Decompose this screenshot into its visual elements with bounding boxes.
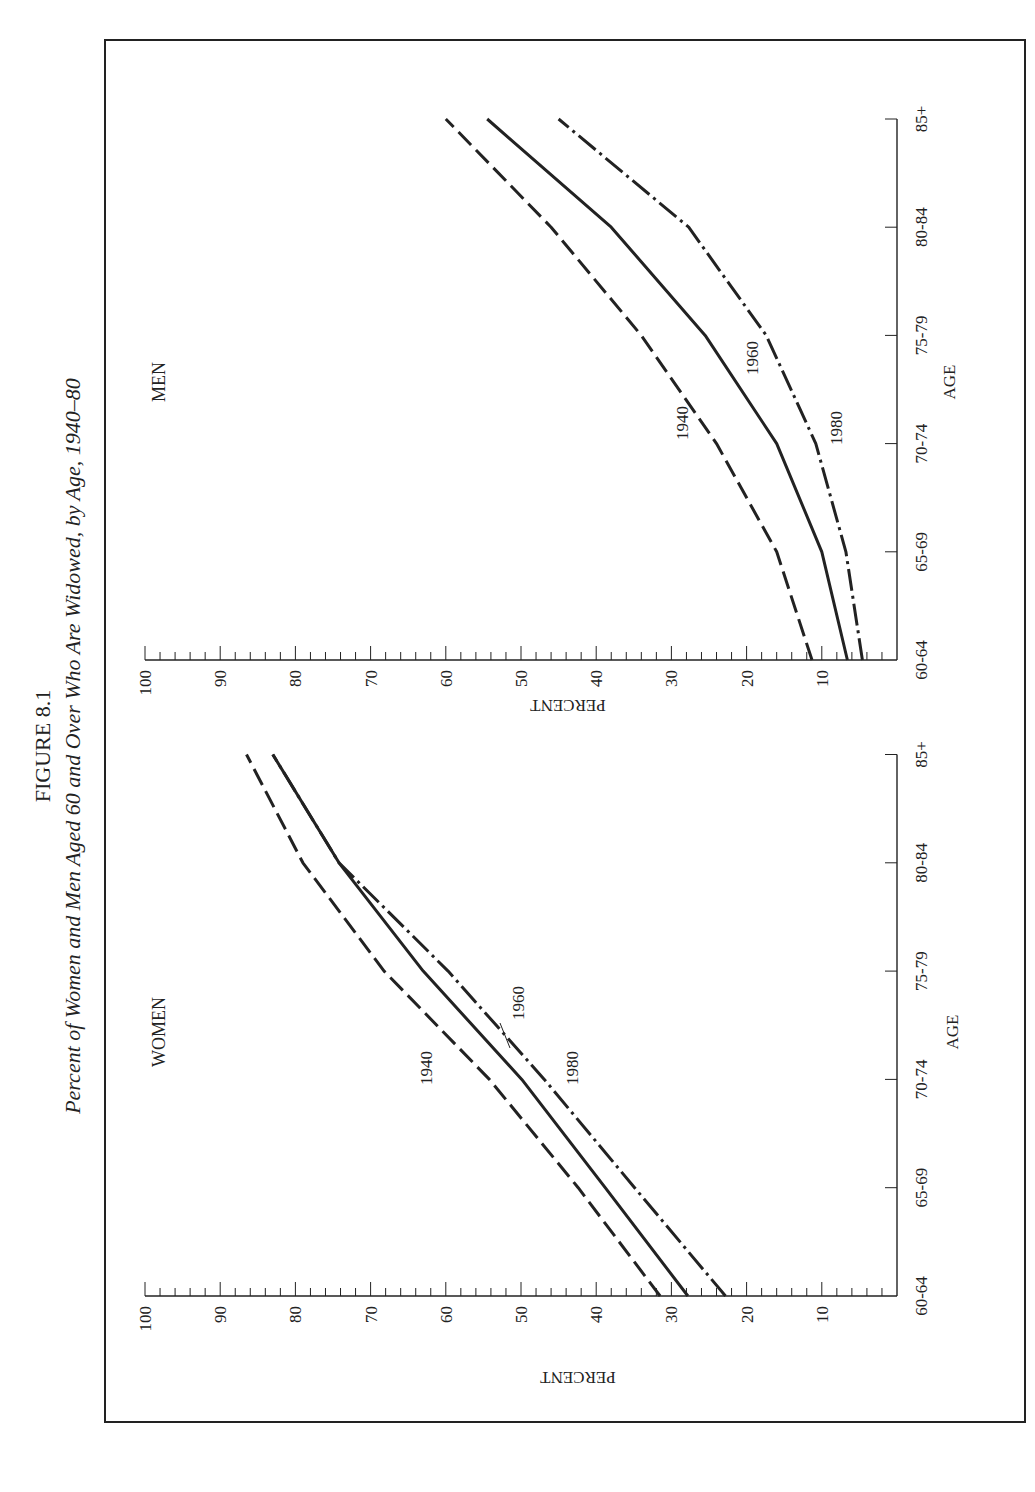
figure-title: Percent of Women and Men Aged 60 and Ove…: [60, 378, 85, 1115]
women-xlabel: AGE: [943, 1015, 962, 1050]
age-tick-label: 60-64: [912, 640, 931, 680]
women-ylabel: PERCENT: [540, 1368, 616, 1387]
men-panel-title: MEN: [149, 362, 169, 402]
series-line-1940: [247, 755, 661, 1297]
women-label-1960: 1960: [509, 986, 528, 1020]
men-panel: MEN 10203040506070809010060-6465-6970-74…: [136, 106, 959, 715]
men-axes: 10203040506070809010060-6465-6970-7475-7…: [136, 106, 931, 696]
age-tick-label: 85+: [912, 106, 931, 133]
women-1960-leader-line: [500, 1023, 510, 1048]
age-tick-label: 80-84: [912, 207, 931, 247]
men-lines: [446, 119, 863, 660]
percent-tick-label: 20: [738, 1306, 757, 1323]
percent-tick-label: 10: [813, 670, 832, 687]
percent-tick-label: 60: [437, 670, 456, 687]
women-lines: [247, 755, 726, 1297]
age-tick-label: 75-79: [912, 316, 931, 356]
series-line-1980: [559, 119, 863, 660]
series-line-1960: [487, 119, 847, 660]
age-tick-label: 75-79: [912, 951, 931, 991]
men-ylabel: PERCENT: [530, 696, 606, 715]
percent-tick-label: 50: [512, 1306, 531, 1323]
percent-tick-label: 40: [587, 670, 606, 687]
women-label-1980: 1980: [563, 1051, 582, 1085]
percent-tick-label: 60: [437, 1306, 456, 1323]
women-panel: WOMEN 10203040506070809010060-6465-6970-…: [136, 741, 962, 1387]
figure-label: FIGURE 8.1: [30, 690, 55, 802]
percent-tick-label: 90: [211, 670, 230, 687]
percent-tick-label: 10: [813, 1306, 832, 1323]
women-label-1940: 1940: [417, 1051, 436, 1085]
men-label-1940: 1940: [673, 406, 692, 440]
percent-tick-label: 80: [286, 670, 305, 687]
women-axes: 10203040506070809010060-6465-6970-7475-7…: [136, 741, 931, 1331]
figure-frame: [105, 40, 1025, 1422]
percent-tick-label: 30: [662, 1306, 681, 1323]
men-label-1980: 1980: [827, 411, 846, 445]
series-line-1940: [446, 119, 812, 660]
figure-canvas: FIGURE 8.1 Percent of Women and Men Aged…: [0, 0, 1035, 1492]
age-tick-label: 65-69: [912, 1168, 931, 1208]
percent-tick-label: 100: [136, 1306, 155, 1332]
age-tick-label: 60-64: [912, 1276, 931, 1316]
percent-tick-label: 80: [286, 1306, 305, 1323]
percent-tick-label: 90: [211, 1306, 230, 1323]
series-line-1960: [273, 755, 688, 1297]
age-tick-label: 70-74: [912, 423, 931, 463]
percent-tick-label: 20: [738, 670, 757, 687]
percent-tick-label: 100: [136, 670, 155, 696]
percent-tick-label: 70: [362, 670, 381, 687]
women-panel-title: WOMEN: [149, 997, 169, 1067]
percent-tick-label: 70: [362, 1306, 381, 1323]
age-tick-label: 80-84: [912, 842, 931, 882]
age-tick-label: 65-69: [912, 532, 931, 572]
percent-tick-label: 40: [587, 1306, 606, 1323]
men-label-1960: 1960: [743, 341, 762, 375]
age-tick-label: 85+: [912, 741, 931, 768]
men-xlabel: AGE: [940, 365, 959, 400]
percent-tick-label: 50: [512, 670, 531, 687]
age-tick-label: 70-74: [912, 1059, 931, 1099]
percent-tick-label: 30: [662, 670, 681, 687]
series-line-1980: [273, 755, 726, 1297]
